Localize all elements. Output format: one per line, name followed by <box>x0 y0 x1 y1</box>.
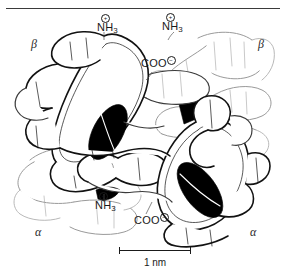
scale-bar-line <box>112 247 198 254</box>
scale-bar-rule <box>119 250 191 251</box>
negative-charge-icon: − <box>160 213 169 222</box>
subunit-label-alpha-bottom-left: α <box>35 226 41 238</box>
amino-terminus-label-top-left: + NH3 <box>97 22 118 35</box>
subunit-label-beta-top-right: β <box>258 38 264 50</box>
positive-charge-icon: + <box>99 192 108 201</box>
scale-bar-right-tick <box>190 247 191 254</box>
amino-terminus-label-bottom: + NH3 <box>95 200 116 213</box>
molecular-structure-drawing: .tube-fg { fill:#ffffff; stroke:#121212;… <box>0 0 286 272</box>
subunit-label-beta-top-left: β <box>31 38 37 50</box>
negative-charge-icon: − <box>167 56 176 65</box>
scale-bar-caption: 1 nm <box>112 257 198 268</box>
amino-terminus-subscript: 3 <box>111 204 116 213</box>
subunit-label-alpha-bottom-right: α <box>250 226 256 238</box>
amino-terminus-label-top-right: + NH3 <box>162 21 183 34</box>
carboxyl-terminus-label-bottom: COO− <box>134 213 169 226</box>
carboxyl-terminus-base: COO <box>134 214 160 226</box>
amino-terminus-subscript: 3 <box>178 25 183 34</box>
positive-charge-icon: + <box>166 13 175 22</box>
carboxyl-terminus-base: COO <box>141 57 167 69</box>
positive-charge-icon: + <box>101 14 110 23</box>
hemoglobin-structure-figure: .tube-fg { fill:#ffffff; stroke:#121212;… <box>0 0 286 272</box>
scale-bar: 1 nm <box>112 247 198 268</box>
amino-terminus-subscript: 3 <box>113 26 118 35</box>
carboxyl-terminus-label-top: COO− <box>141 56 176 69</box>
